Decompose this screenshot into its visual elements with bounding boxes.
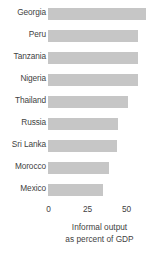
bar-row: Sri Lanka — [0, 140, 157, 152]
bar-row: Morocco — [0, 162, 157, 174]
x-axis-title-line-1: Informal output — [42, 222, 157, 234]
x-tick-label: 0 — [46, 203, 51, 215]
x-axis-title: Informal output as percent of GDP — [42, 222, 157, 245]
category-label: Morocco — [0, 160, 46, 172]
category-label: Mexico — [0, 182, 46, 194]
bar-row: Nigeria — [0, 74, 157, 86]
bar — [48, 96, 128, 108]
bar-row: Peru — [0, 30, 157, 42]
bar — [48, 52, 138, 64]
bar — [48, 118, 118, 130]
bar-row: Thailand — [0, 96, 157, 108]
x-tick-label: 50 — [122, 203, 131, 215]
bar-row: Georgia — [0, 8, 157, 20]
bar-row: Russia — [0, 118, 157, 130]
category-label: Georgia — [0, 6, 46, 18]
bar — [48, 30, 138, 42]
x-axis-title-line-2: as percent of GDP — [42, 234, 157, 246]
x-axis: 02550 — [0, 203, 157, 217]
bar — [48, 8, 146, 20]
bar — [48, 184, 103, 196]
bar-row: Tanzania — [0, 52, 157, 64]
category-label: Tanzania — [0, 50, 46, 62]
x-tick-label: 25 — [83, 203, 92, 215]
category-label: Peru — [0, 28, 46, 40]
category-label: Thailand — [0, 94, 46, 106]
category-label: Nigeria — [0, 72, 46, 84]
bar — [48, 140, 117, 152]
plot-area: GeorgiaPeruTanzaniaNigeriaThailandRussia… — [0, 0, 157, 200]
bar — [48, 74, 138, 86]
category-label: Russia — [0, 116, 46, 128]
bar-chart: GeorgiaPeruTanzaniaNigeriaThailandRussia… — [0, 0, 157, 257]
bar — [48, 162, 109, 174]
bar-row: Mexico — [0, 184, 157, 196]
category-label: Sri Lanka — [0, 138, 46, 150]
